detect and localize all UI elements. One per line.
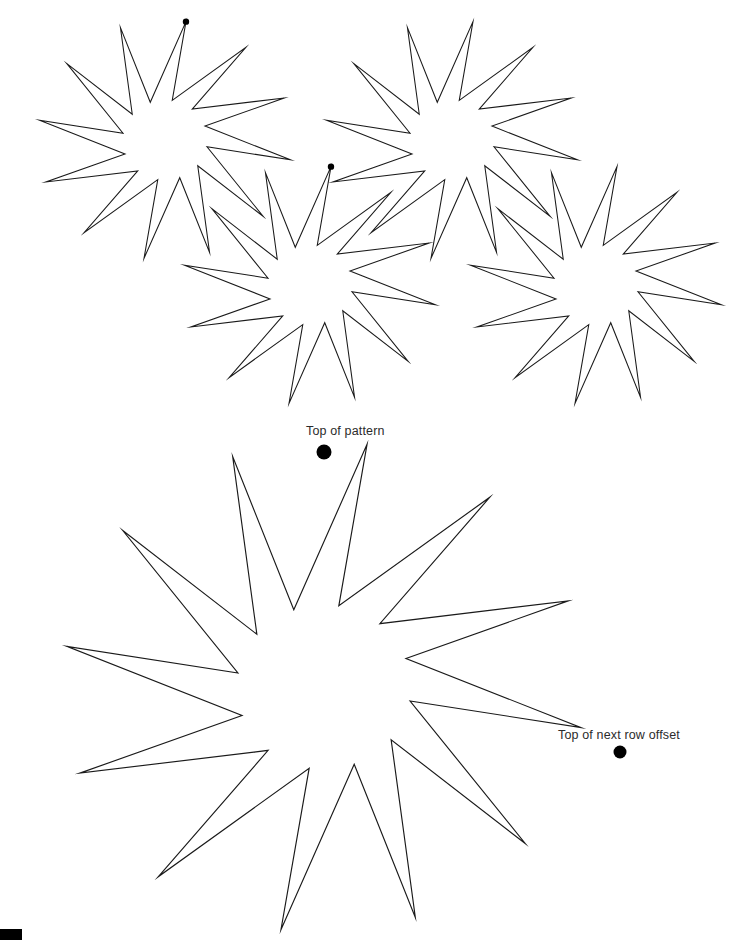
star-shape-main bbox=[67, 444, 581, 929]
marker-dots-group bbox=[183, 18, 627, 758]
star-shape-tile-1 bbox=[40, 22, 291, 259]
star-shape-tile-4 bbox=[471, 167, 722, 404]
marker-dot-next-row-offset-dot bbox=[614, 746, 627, 759]
star-tip-dot-tile-3 bbox=[328, 163, 334, 169]
corner-registration-mark bbox=[0, 929, 22, 940]
star-shapes-group bbox=[40, 22, 722, 930]
label-top-of-next-row-offset: Top of next row offset bbox=[558, 729, 680, 742]
starburst-pattern-canvas bbox=[0, 0, 729, 940]
star-tip-dot-tile-1 bbox=[183, 18, 189, 24]
label-top-of-pattern: Top of pattern bbox=[306, 425, 385, 438]
marker-dot-top-of-pattern-dot bbox=[317, 445, 332, 460]
pattern-diagram-page: Top of pattern Top of next row offset bbox=[0, 0, 729, 940]
